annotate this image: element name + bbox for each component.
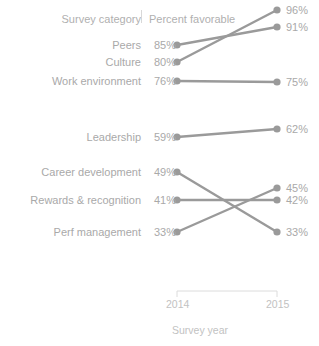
- slope-chart: Survey category Percent favorable Peers8…: [0, 0, 319, 346]
- axis-title: Survey year: [172, 325, 228, 336]
- axis-bracket: [177, 291, 277, 297]
- axis-tick-2015: 2015: [266, 299, 289, 310]
- axis-tick-2014: 2014: [166, 299, 189, 310]
- x-axis-layer: [0, 0, 319, 346]
